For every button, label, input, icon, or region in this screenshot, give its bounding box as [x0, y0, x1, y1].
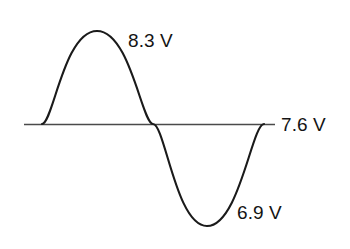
- sine-wave-curve: [42, 31, 264, 226]
- trough-voltage-label: 6.9 V: [237, 203, 282, 222]
- waveform-figure: 8.3 V 7.6 V 6.9 V: [0, 0, 350, 249]
- peak-voltage-label: 8.3 V: [128, 31, 173, 50]
- baseline-voltage-label: 7.6 V: [281, 115, 326, 134]
